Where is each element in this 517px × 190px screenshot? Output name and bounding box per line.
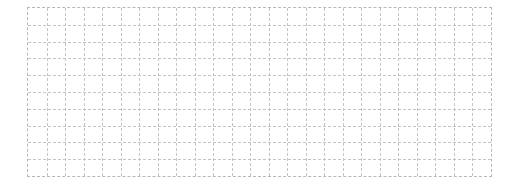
grid-horizontal-line xyxy=(28,92,491,93)
grid-horizontal-line xyxy=(28,58,491,59)
grid-horizontal-line xyxy=(28,126,491,127)
grid-horizontal-line xyxy=(28,25,491,26)
dashed-grid xyxy=(27,7,492,177)
grid-horizontal-line xyxy=(28,159,491,160)
grid-horizontal-line xyxy=(28,109,491,110)
grid-horizontal-line xyxy=(28,142,491,143)
grid-horizontal-line xyxy=(28,42,491,43)
grid-horizontal-line xyxy=(28,75,491,76)
